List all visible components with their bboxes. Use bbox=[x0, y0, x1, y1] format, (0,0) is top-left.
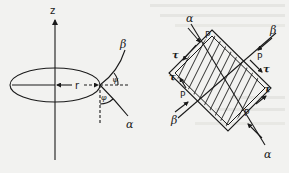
pressure-label-bottom-right: P bbox=[244, 108, 250, 118]
shear-label-lower-right: τ bbox=[264, 83, 271, 94]
shear-label-lower-left: τ bbox=[169, 71, 176, 82]
beta-label: β bbox=[119, 38, 126, 51]
beta-line bbox=[178, 33, 276, 118]
shear-arrow-upper-left bbox=[183, 45, 196, 60]
pressure-arrow-top-right bbox=[258, 38, 272, 50]
alpha-label: α bbox=[126, 118, 134, 131]
figure: z r β ψ φ α bbox=[0, 0, 289, 173]
alpha-line bbox=[191, 24, 265, 145]
alpha-bottom-label: α bbox=[264, 148, 272, 161]
z-axis-label: z bbox=[50, 5, 55, 16]
pressure-label-top-left: P bbox=[205, 30, 211, 40]
radius-label: r bbox=[75, 80, 80, 91]
shear-label-upper-right: τ bbox=[263, 63, 270, 74]
phi-label: φ bbox=[101, 93, 107, 102]
left-panel bbox=[10, 20, 128, 160]
alpha-top-label: α bbox=[186, 12, 194, 25]
pressure-label-bottom-left: P bbox=[180, 90, 186, 100]
pressure-arrow-bottom-right bbox=[248, 124, 262, 138]
pressure-label-top-right: P bbox=[257, 52, 263, 62]
shear-label-upper-left: τ bbox=[172, 49, 179, 60]
beta-bottom-label: β bbox=[170, 114, 177, 127]
beta-top-label: β bbox=[269, 24, 276, 37]
psi-label: ψ bbox=[112, 75, 119, 84]
square-inner bbox=[175, 36, 265, 125]
